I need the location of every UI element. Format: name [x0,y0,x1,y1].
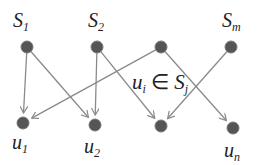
nodes [17,41,239,134]
node-u1 [17,117,29,129]
edge-S2-u2 [95,53,97,115]
node-u3 [155,120,167,132]
edges [24,50,227,121]
membership-annotation: ui ∈ Sj [132,72,188,95]
bipartite-diagram: S1 S2 Sm u1 u2 un ui ∈ Sj [0,0,258,165]
node-S1 [21,41,33,53]
label-s1: S1 [13,10,29,33]
node-un [227,122,239,134]
graph-svg [0,0,258,165]
node-u2 [89,119,101,131]
label-sm: Sm [222,10,241,33]
edge-S1-u2 [31,52,88,118]
label-s2: S2 [88,10,104,33]
label-u1: u1 [12,132,28,155]
label-un: un [224,140,240,163]
node-S2 [91,41,103,53]
node-S3 [155,41,167,53]
node-Sm [225,41,237,53]
edge-S1-u1 [24,53,27,113]
label-u2: u2 [84,136,100,159]
